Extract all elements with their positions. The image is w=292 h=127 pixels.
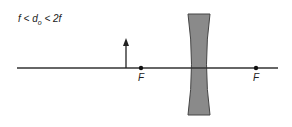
focal-point-left: [139, 66, 143, 70]
focal-label-right: F: [253, 72, 259, 83]
lens-diagram: f < do < 2f F F: [0, 0, 292, 127]
object-arrow-head: [123, 38, 129, 46]
focal-label-left: F: [138, 72, 144, 83]
condition-left: f < d: [18, 13, 38, 24]
condition-right: < 2f: [42, 13, 62, 24]
focal-point-right: [254, 66, 258, 70]
concave-lens: [188, 14, 210, 115]
distance-condition: f < do < 2f: [18, 13, 61, 26]
